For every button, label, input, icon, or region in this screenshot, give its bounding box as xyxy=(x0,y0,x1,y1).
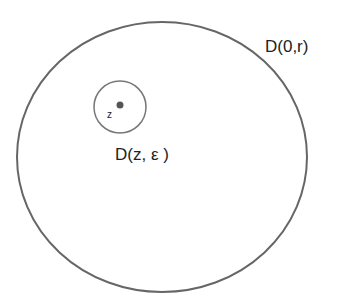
point-z-label: z xyxy=(107,109,112,120)
disk-diagram: D(0,r) z D(z, ε ) xyxy=(0,0,337,307)
outer-disk-label: D(0,r) xyxy=(265,37,308,56)
inner-disk-label: D(z, ε ) xyxy=(115,145,169,164)
point-z-dot xyxy=(117,102,124,109)
